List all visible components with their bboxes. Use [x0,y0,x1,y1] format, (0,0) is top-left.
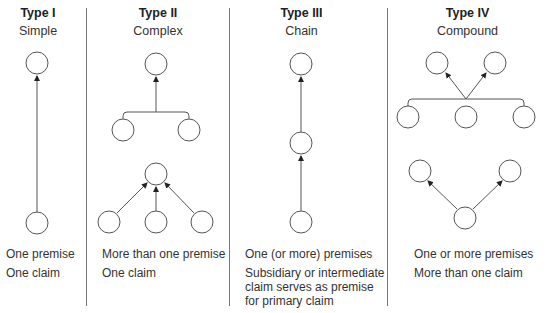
column-type-iii: Type III Chain One (or more) premises Su… [230,0,387,313]
description-line: Subsidiary or intermediate [245,266,384,281]
column-type-ii: Type II Complex More than one premise On… [87,0,229,313]
column-type-iv: Type IV Compound One or more premises Mo… [388,0,547,313]
column-subtitle: Complex [87,24,229,38]
description-line: One (or more) premises [245,247,372,262]
description-line: One or more premises [414,247,533,262]
description-line: One claim [102,266,156,281]
column-title: Type I [0,6,86,20]
column-subtitle: Simple [0,24,86,38]
column-title: Type II [87,6,229,20]
column-subtitle: Compound [388,24,547,38]
column-title: Type IV [388,6,547,20]
description-line: for primary claim [245,294,334,309]
description-line: More than one premise [102,247,225,262]
description-line: One claim [6,266,60,281]
column-title: Type III [216,6,387,20]
description-line: More than one claim [414,266,523,281]
column-subtitle: Chain [216,24,387,38]
description-line: claim serves as premise [245,280,374,295]
description-line: One premise [6,247,75,262]
column-type-i: Type I Simple One premise One claim [0,0,86,313]
